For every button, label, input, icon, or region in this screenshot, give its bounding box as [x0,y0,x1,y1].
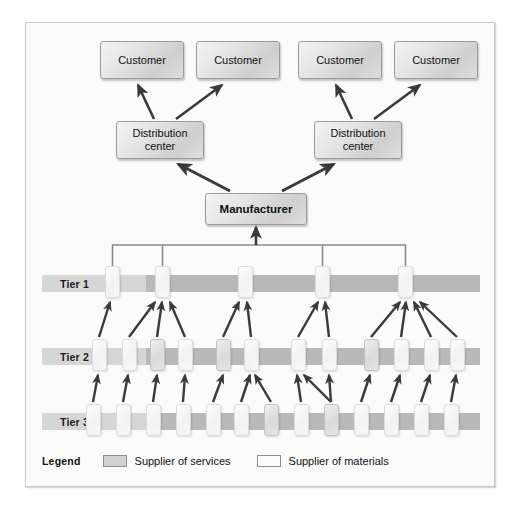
diagram-canvas: Customer Customer Customer Customer Dist… [26,23,494,486]
customer-node-3-label: Customer [316,54,364,67]
supplier-chip-tier3-6[interactable] [234,404,249,436]
distribution-center-node-1-label: Distribution center [117,127,203,153]
supplier-chip-tier3-11[interactable] [384,404,399,436]
supplier-chip-tier2-7[interactable] [291,339,306,371]
supplier-chip-tier1-4[interactable] [315,266,330,298]
customer-node-3[interactable]: Customer [298,41,382,79]
supplier-chip-tier3-9[interactable] [324,404,339,436]
diagram-panel: Customer Customer Customer Customer Dist… [25,22,495,487]
tier-3-label: Tier 3 [42,416,89,428]
supplier-chip-tier2-8[interactable] [322,339,337,371]
legend-label-materials: Supplier of materials [289,455,389,467]
supplier-chip-tier3-4[interactable] [176,404,191,436]
supplier-chip-tier2-9[interactable] [364,339,379,371]
supplier-chip-tier1-1[interactable] [105,266,120,298]
supplier-chip-tier2-5[interactable] [216,339,231,371]
legend-swatch-services-icon [103,455,127,467]
tier-2-label: Tier 2 [42,351,89,363]
distribution-center-node-2-label: Distribution center [315,127,401,153]
tier-row-2: Tier 2 [42,348,480,365]
manufacturer-node[interactable]: Manufacturer [205,193,307,225]
supplier-chip-tier2-11[interactable] [424,339,439,371]
supplier-chip-tier2-6[interactable] [244,339,259,371]
distribution-center-node-1[interactable]: Distribution center [116,121,204,159]
supplier-chip-tier3-1[interactable] [86,404,101,436]
supplier-chip-tier3-3[interactable] [146,404,161,436]
legend-item-services: Supplier of services [103,455,231,467]
manufacturer-node-label: Manufacturer [220,203,293,216]
customer-node-2-label: Customer [214,54,262,67]
customer-node-1-label: Customer [118,54,166,67]
legend-swatch-materials-icon [257,455,281,467]
legend-title: Legend [42,455,81,467]
supplier-chip-tier2-12[interactable] [450,339,465,371]
customer-node-1[interactable]: Customer [100,41,184,79]
customer-node-4[interactable]: Customer [394,41,478,79]
distribution-center-node-2[interactable]: Distribution center [314,121,402,159]
supplier-chip-tier1-3[interactable] [238,266,253,298]
supplier-chip-tier3-10[interactable] [354,404,369,436]
supplier-chip-tier3-13[interactable] [444,404,459,436]
legend-label-services: Supplier of services [135,455,231,467]
supplier-chip-tier3-5[interactable] [206,404,221,436]
supplier-chip-tier2-10[interactable] [394,339,409,371]
customer-node-4-label: Customer [412,54,460,67]
supplier-chip-tier3-12[interactable] [414,404,429,436]
diagram-root: Customer Customer Customer Customer Dist… [0,0,520,514]
supplier-chip-tier3-7[interactable] [264,404,279,436]
supplier-chip-tier2-4[interactable] [178,339,193,371]
supplier-chip-tier3-8[interactable] [294,404,309,436]
supplier-chip-tier1-5[interactable] [398,266,413,298]
supplier-chip-tier2-2[interactable] [122,339,137,371]
legend-item-materials: Supplier of materials [257,455,389,467]
supplier-chip-tier2-1[interactable] [92,339,107,371]
supplier-chip-tier1-2[interactable] [155,266,170,298]
tier-1-label-segment: Tier 1 [42,275,146,292]
legend: Legend Supplier of services Supplier of … [42,450,415,472]
customer-node-2[interactable]: Customer [196,41,280,79]
supplier-chip-tier3-2[interactable] [116,404,131,436]
tier-1-label: Tier 1 [42,278,89,290]
supplier-chip-tier2-3[interactable] [150,339,165,371]
